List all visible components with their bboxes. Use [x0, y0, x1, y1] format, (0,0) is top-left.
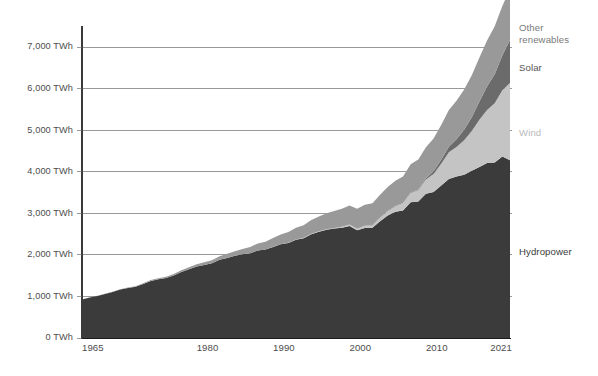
area-series-hydropower [82, 156, 510, 338]
y-tick-label-6000: 6,000 TWh [27, 83, 73, 93]
x-tick-label-group: 196519801990200020102021 [82, 342, 512, 353]
y-tick-label-4000: 4,000 TWh [27, 166, 73, 176]
series-label-other-renewables: Otherrenewables [519, 22, 569, 45]
chart-container: 0 TWh1,000 TWh2,000 TWh3,000 TWh4,000 TW… [0, 0, 598, 376]
series-label-line: Other [519, 22, 544, 33]
y-tick-label-2000: 2,000 TWh [27, 249, 73, 259]
y-tick-label-group: 0 TWh1,000 TWh2,000 TWh3,000 TWh4,000 TW… [27, 41, 82, 342]
series-label-line: renewables [519, 34, 569, 45]
series-label-line: Solar [519, 62, 543, 73]
y-tick-label-1000: 1,000 TWh [27, 291, 73, 301]
x-tick-label-2021: 2021 [490, 342, 512, 353]
x-tick-label-1980: 1980 [197, 342, 219, 353]
y-tick-label-0: 0 TWh [46, 332, 73, 342]
series-label-group: OtherrenewablesSolarWindHydropower [519, 22, 572, 257]
series-label-line: Wind [519, 127, 541, 138]
stacked-area-chart: 0 TWh1,000 TWh2,000 TWh3,000 TWh4,000 TW… [0, 0, 598, 376]
x-tick-label-2010: 2010 [426, 342, 448, 353]
x-tick-label-1990: 1990 [273, 342, 295, 353]
x-tick-label-1965: 1965 [82, 342, 104, 353]
y-tick-label-3000: 3,000 TWh [27, 208, 73, 218]
series-label-solar: Solar [519, 62, 543, 73]
series-label-hydropower: Hydropower [519, 246, 572, 257]
y-tick-label-7000: 7,000 TWh [27, 41, 73, 51]
series-label-wind: Wind [519, 127, 541, 138]
x-tick-label-2000: 2000 [350, 342, 372, 353]
y-tick-label-5000: 5,000 TWh [27, 125, 73, 135]
series-label-line: Hydropower [519, 246, 572, 257]
series-area-group [82, 0, 510, 338]
